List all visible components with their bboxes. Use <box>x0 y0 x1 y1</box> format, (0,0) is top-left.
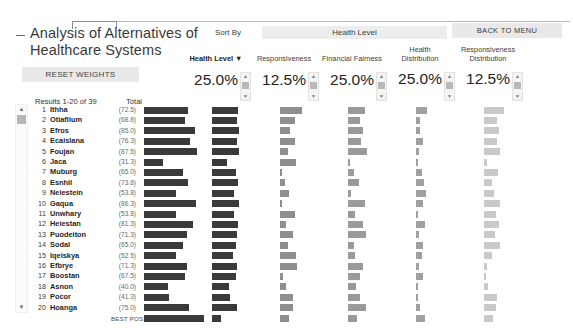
back-to-menu-button[interactable]: BACK TO MENU <box>452 23 562 38</box>
weight-label-line: Health Level ▼ <box>180 55 252 64</box>
table-row[interactable]: 7Muburg(65.0) <box>26 167 573 177</box>
criterion-bar <box>348 148 367 155</box>
criterion-bar <box>280 221 286 228</box>
criterion-bar <box>484 117 497 124</box>
row-rank: 14 <box>32 240 46 250</box>
criterion-bar <box>416 273 423 280</box>
criterion-bar <box>212 107 238 114</box>
best-possible-bar <box>484 315 493 322</box>
criterion-bar <box>416 117 420 124</box>
table-row[interactable]: 3Efros(85.0) <box>26 126 573 136</box>
weight-label-2[interactable]: Responsiveness <box>248 46 320 64</box>
criterion-bar <box>280 252 296 259</box>
row-rank: 4 <box>32 136 46 146</box>
criterion-bar <box>416 190 426 197</box>
criterion-bar <box>280 294 293 301</box>
row-score: (65.0) <box>106 240 136 250</box>
best-possible-bar <box>212 315 221 322</box>
stepper-down-icon[interactable]: ▼ <box>445 93 454 100</box>
criterion-bar <box>348 138 361 145</box>
criterion-bar <box>416 127 420 134</box>
stepper-thumb[interactable] <box>514 82 521 89</box>
criterion-bar <box>212 190 234 197</box>
weight-stepper-5[interactable]: ▲▼ <box>512 72 523 101</box>
criterion-bar <box>212 127 239 134</box>
table-row[interactable]: 17Boostan(67.5) <box>26 271 573 281</box>
table-row[interactable]: 9Neiestein(53.8) <box>26 188 573 198</box>
criterion-bar <box>484 159 487 166</box>
table-row[interactable]: 19Pocor(41.3) <box>26 292 573 302</box>
table-row[interactable]: 20Hoanga(75.0) <box>26 303 573 313</box>
criterion-bar <box>348 294 360 301</box>
row-score: (65.0) <box>106 167 136 177</box>
criterion-bar <box>348 304 366 311</box>
table-row[interactable]: 14Sodal(65.0) <box>26 240 573 250</box>
row-score: (75.0) <box>106 303 136 313</box>
criterion-bar <box>484 283 488 290</box>
table-row[interactable]: 5Foujan(87.5) <box>26 147 573 157</box>
collapse-icon[interactable] <box>16 35 25 36</box>
total-bar <box>144 117 185 124</box>
row-score: (53.8) <box>106 188 136 198</box>
criterion-bar <box>484 169 498 176</box>
criterion-bar <box>212 304 237 311</box>
row-name: Efros <box>50 126 69 136</box>
stepper-up-icon[interactable]: ▲ <box>513 73 522 80</box>
weight-label-3[interactable]: Financial Fairness <box>316 46 388 64</box>
criterion-bar <box>212 283 229 290</box>
criterion-bar <box>348 221 363 228</box>
criterion-bar <box>280 179 285 186</box>
table-row[interactable]: 10Gaqua(86.3) <box>26 199 573 209</box>
criterion-bar <box>348 252 355 259</box>
stepper-down-icon[interactable]: ▼ <box>513 93 522 100</box>
row-rank: 6 <box>32 157 46 167</box>
table-row[interactable]: 16Efbrye(71.3) <box>26 261 573 271</box>
row-name: Gaqua <box>50 199 73 209</box>
criterion-bar <box>212 221 238 228</box>
total-bar <box>144 107 188 114</box>
table-row[interactable]: 8Esnhil(73.8) <box>26 178 573 188</box>
row-score: (68.8) <box>106 115 136 125</box>
reset-weights-button[interactable]: RESET WEIGHTS <box>22 67 139 82</box>
total-bar <box>144 179 188 186</box>
weight-label-5[interactable]: ResponsivenessDistribution <box>452 46 524 63</box>
total-bar <box>144 294 169 301</box>
table-row[interactable]: 18Asnon(40.0) <box>26 282 573 292</box>
weight-label-1[interactable]: Health Level ▼ <box>180 46 252 64</box>
criterion-bar <box>484 231 495 238</box>
row-score: (85.0) <box>106 126 136 136</box>
row-score: (81.3) <box>106 219 136 229</box>
stepper-down-icon[interactable]: ▼ <box>241 93 250 100</box>
row-rank: 20 <box>32 303 46 313</box>
table-row[interactable]: 1Ithha(72.5) <box>26 105 573 115</box>
row-rank: 10 <box>32 199 46 209</box>
row-name: Jaca <box>50 157 66 167</box>
row-rank: 19 <box>32 292 46 302</box>
row-rank: 13 <box>32 230 46 240</box>
weight-label-4[interactable]: HealthDistribution <box>384 46 456 63</box>
row-name: Hoanga <box>50 303 77 313</box>
criterion-bar <box>348 231 366 238</box>
row-rank: 1 <box>32 105 46 115</box>
total-bar <box>144 127 195 134</box>
table-row[interactable]: 4Ecaislana(76.3) <box>26 136 573 146</box>
criterion-bar <box>280 117 295 124</box>
criterion-bar <box>484 107 504 114</box>
table-row[interactable]: 2Otiaflium(68.8) <box>26 115 573 125</box>
row-rank: 15 <box>32 251 46 261</box>
table-row[interactable]: 15Iqeiskya(52.5) <box>26 251 573 261</box>
table-row[interactable]: 11Unwhary(53.8) <box>26 209 573 219</box>
criterion-bar <box>484 190 494 197</box>
criterion-bar <box>484 273 486 280</box>
scrollbar-thumb[interactable] <box>17 115 26 124</box>
row-rank: 2 <box>32 115 46 125</box>
table-row[interactable]: 13Puodeiton(71.3) <box>26 230 573 240</box>
row-score: (87.5) <box>106 147 136 157</box>
table-row[interactable]: 12Heiestan(81.3) <box>26 219 573 229</box>
stepper-down-icon[interactable]: ▼ <box>377 93 386 100</box>
stepper-down-icon[interactable]: ▼ <box>309 93 318 100</box>
sort-by-value[interactable]: Health Level <box>262 28 447 37</box>
total-bar <box>144 273 185 280</box>
criterion-bar <box>484 294 497 301</box>
table-row[interactable]: 6Jaca(31.3) <box>26 157 573 167</box>
